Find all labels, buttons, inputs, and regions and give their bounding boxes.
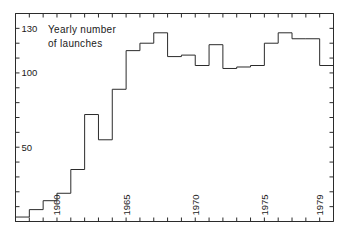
x-axis-label-1975: 1975 [259,194,270,215]
chart-figure: 50100130 19601965197019751979 Yearly num… [0,0,346,238]
chart-title: Yearly number of launches [48,24,116,49]
y-axis-label-130: 130 [22,23,38,34]
data-step-line [16,33,334,222]
y-axis-tick-labels: 50100130 [22,23,38,153]
launches-step-chart: 50100130 19601965197019751979 Yearly num… [0,0,346,238]
x-axis-label-1970: 1970 [190,194,201,215]
x-axis-label-1965: 1965 [121,194,132,215]
chart-title-line-2: of launches [48,38,102,49]
y-axis-label-50: 50 [22,142,33,153]
x-axis-tick-labels: 19601965197019751979 [51,194,325,215]
chart-title-line-1: Yearly number [48,24,116,35]
y-axis-label-100: 100 [22,67,38,78]
launches-step-path [16,33,334,222]
x-axis-label-1979: 1979 [314,194,325,215]
